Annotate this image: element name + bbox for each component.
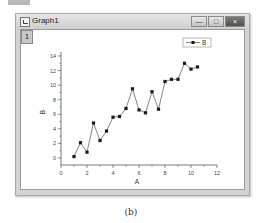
data-point bbox=[170, 78, 173, 81]
data-point bbox=[189, 68, 192, 71]
data-point bbox=[150, 90, 153, 93]
line-chart: 02468101202468101214ABB bbox=[0, 0, 262, 223]
data-point bbox=[144, 111, 147, 114]
x-axis-label: A bbox=[135, 178, 140, 185]
x-tick-label: 10 bbox=[188, 170, 194, 176]
figure-caption: (b) bbox=[0, 207, 262, 217]
x-tick-label: 4 bbox=[111, 170, 114, 176]
y-tick-label: 12 bbox=[50, 68, 56, 74]
data-point bbox=[79, 141, 82, 144]
data-point bbox=[72, 155, 75, 158]
data-point bbox=[157, 108, 160, 111]
data-point bbox=[163, 80, 166, 83]
data-point bbox=[92, 121, 95, 124]
data-point bbox=[131, 87, 134, 90]
y-tick-label: 6 bbox=[53, 111, 56, 117]
y-tick-label: 10 bbox=[50, 82, 56, 88]
y-tick-label: 4 bbox=[53, 126, 56, 132]
data-point bbox=[98, 139, 101, 142]
legend-label: B bbox=[202, 39, 206, 46]
data-point bbox=[183, 62, 186, 65]
x-tick-label: 0 bbox=[59, 170, 62, 176]
y-tick-label: 14 bbox=[50, 53, 56, 59]
data-point bbox=[85, 151, 88, 154]
data-point bbox=[196, 65, 199, 68]
y-tick-label: 8 bbox=[53, 97, 56, 103]
data-point bbox=[105, 129, 108, 132]
series-line bbox=[74, 63, 198, 156]
x-tick-label: 6 bbox=[137, 170, 140, 176]
data-point bbox=[124, 107, 127, 110]
legend-marker bbox=[192, 41, 195, 44]
data-point bbox=[118, 115, 121, 118]
x-tick-label: 8 bbox=[163, 170, 166, 176]
y-tick-label: 0 bbox=[53, 155, 56, 161]
x-tick-label: 12 bbox=[214, 170, 220, 176]
data-point bbox=[111, 116, 114, 119]
data-point bbox=[137, 108, 140, 111]
x-tick-label: 2 bbox=[85, 170, 88, 176]
y-axis-label: B bbox=[39, 110, 46, 114]
data-point bbox=[176, 78, 179, 81]
y-tick-label: 2 bbox=[53, 140, 56, 146]
